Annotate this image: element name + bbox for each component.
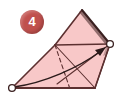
origami-diagram xyxy=(0,0,124,96)
crease-horizontal xyxy=(55,44,110,45)
origami-step-figure: 4 xyxy=(0,0,124,96)
corner-marker-left-icon xyxy=(9,85,16,92)
step-number-label: 4 xyxy=(20,10,44,34)
corner-marker-right-icon xyxy=(107,41,114,48)
step-number-badge: 4 xyxy=(20,10,44,34)
